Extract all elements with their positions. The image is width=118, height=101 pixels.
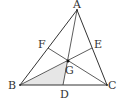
label-f: F bbox=[38, 39, 46, 50]
label-a: A bbox=[73, 0, 81, 10]
point-b bbox=[19, 84, 21, 86]
label-e: E bbox=[94, 39, 102, 50]
label-c: C bbox=[108, 80, 116, 91]
label-g: G bbox=[65, 65, 74, 76]
centroid-point bbox=[67, 60, 70, 63]
triangle-diagram: A B C D E F G bbox=[0, 0, 118, 101]
label-b: B bbox=[8, 80, 16, 91]
label-d: D bbox=[60, 89, 69, 100]
